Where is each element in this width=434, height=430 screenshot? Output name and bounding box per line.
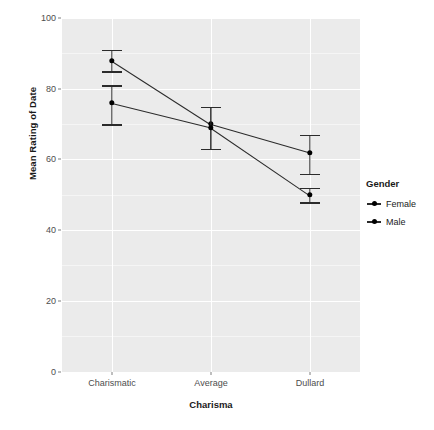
legend-item-female[interactable]: Female — [366, 196, 434, 212]
errorbar-cap-bottom-male-charismatic — [102, 124, 122, 125]
errorbar-cap-bottom-male-dullard — [300, 202, 320, 203]
data-point-male-charismatic — [109, 100, 114, 105]
x-tick-mark-charismatic — [112, 372, 113, 375]
point-errorbar-icon — [366, 196, 382, 212]
legend-label-female: Female — [386, 199, 416, 209]
legend-label-male: Male — [386, 217, 406, 227]
gridline-x-average — [211, 18, 212, 372]
x-tick-label-dullard: Dullard — [296, 378, 325, 388]
plot-panel — [62, 18, 360, 372]
y-axis-tick-labels: 0 20 40 60 80 100 — [20, 0, 56, 430]
y-tick-mark-0 — [58, 372, 61, 373]
y-tick-label-20: 20 — [22, 296, 56, 306]
x-axis-title: Charisma — [62, 399, 360, 410]
x-tick-label-charismatic: Charismatic — [88, 378, 136, 388]
chart-root: Mean Rating of Date 0 20 40 60 80 100 — [0, 0, 434, 430]
errorbar-cap-top-female-dullard — [300, 135, 320, 136]
y-tick-mark-100 — [58, 18, 61, 19]
y-tick-label-60: 60 — [22, 154, 56, 164]
point-errorbar-icon — [366, 214, 382, 230]
data-point-female-dullard — [307, 150, 312, 155]
legend-title: Gender — [366, 178, 434, 189]
x-tick-mark-average — [211, 372, 212, 375]
errorbar-cap-bottom-female-dullard — [300, 174, 320, 175]
legend-item-male[interactable]: Male — [366, 214, 434, 230]
errorbar-cap-top-male-average — [201, 107, 221, 108]
y-tick-label-80: 80 — [22, 84, 56, 94]
legend: Gender Female Male — [366, 178, 434, 232]
y-tick-label-40: 40 — [22, 225, 56, 235]
x-tick-mark-dullard — [310, 372, 311, 375]
y-tick-mark-60 — [58, 159, 61, 160]
errorbar-cap-top-female-charismatic — [102, 50, 122, 51]
data-point-male-dullard — [307, 192, 312, 197]
y-tick-mark-20 — [58, 301, 61, 302]
y-tick-mark-80 — [58, 89, 61, 90]
x-tick-label-average: Average — [194, 378, 227, 388]
errorbar-cap-top-male-charismatic — [102, 85, 122, 86]
y-tick-mark-40 — [58, 230, 61, 231]
errorbar-cap-top-male-dullard — [300, 188, 320, 189]
errorbar-cap-bottom-male-average — [201, 149, 221, 150]
y-tick-label-100: 100 — [22, 13, 56, 23]
y-tick-label-0: 0 — [22, 367, 56, 377]
errorbar-cap-bottom-female-charismatic — [102, 71, 122, 72]
